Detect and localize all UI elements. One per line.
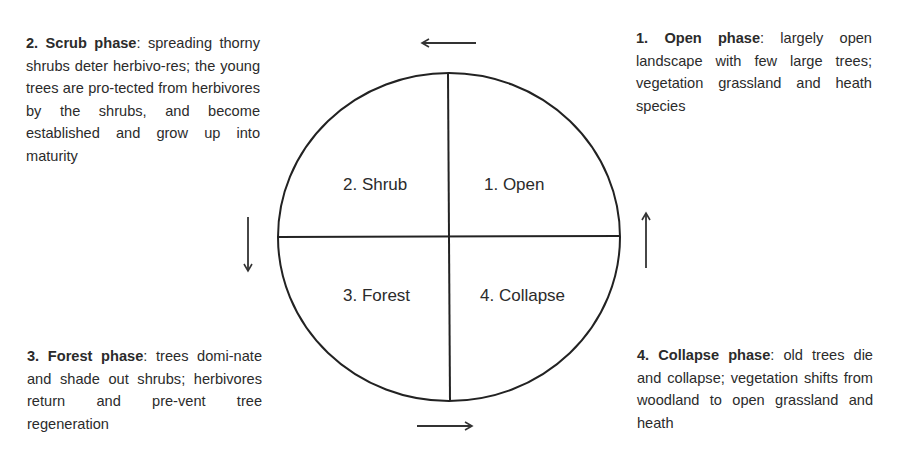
quadrant-label-collapse: 4. Collapse: [480, 286, 565, 305]
cycle-circle: [278, 73, 620, 401]
quadrant-label-forest: 3. Forest: [343, 286, 410, 305]
quadrant-label-shrub: 2. Shrub: [343, 175, 407, 194]
horizontal-divider: [278, 236, 620, 237]
quadrant-label-open: 1. Open: [484, 175, 545, 194]
cycle-diagram: 2. Shrub 1. Open 3. Forest 4. Collapse: [0, 0, 899, 464]
